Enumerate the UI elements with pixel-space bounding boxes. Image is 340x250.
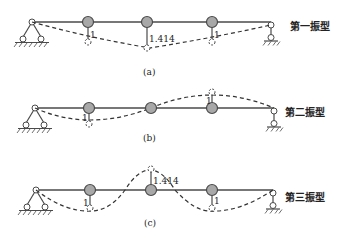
caption: (b) xyxy=(143,133,156,143)
amplitude-label: 1 xyxy=(83,198,89,208)
caption: (c) xyxy=(144,218,156,228)
mode-label: 第一振型 xyxy=(290,20,330,32)
amplitude-label: 1 xyxy=(206,96,212,106)
pin-support-icon xyxy=(18,187,53,215)
mode-label: 第三振型 xyxy=(285,191,325,203)
mode-b: 1 1 第二振型 (b) xyxy=(17,89,325,143)
mass-icon xyxy=(85,185,96,196)
roller-support-icon xyxy=(265,190,282,214)
pin-support-icon xyxy=(14,19,49,47)
mass-icon xyxy=(84,103,95,114)
amplitude-label: 1.414 xyxy=(149,34,175,44)
pin-support-icon xyxy=(17,105,52,133)
mass-icon xyxy=(83,17,94,28)
mass-icon xyxy=(207,17,218,28)
mode-c: 1 1.414 1 第三振型 (c) xyxy=(18,166,325,228)
mass-icon xyxy=(207,185,218,196)
amplitude-label: 1 xyxy=(90,30,96,40)
roller-support-icon xyxy=(266,108,283,132)
mass-icon xyxy=(142,17,153,28)
mode-label: 第二振型 xyxy=(285,106,325,118)
amplitude-label: 1 xyxy=(82,113,88,123)
amplitude-label: 1 xyxy=(214,196,220,206)
amplitude-label: 1 xyxy=(214,30,220,40)
caption: (a) xyxy=(143,67,155,77)
mass-icon xyxy=(146,103,157,114)
mode-shapes-diagram: 1 1.414 1 第一振型 (a) 1 1 第二振型 (b) xyxy=(0,0,340,250)
mode-a: 1 1.414 1 第一振型 (a) xyxy=(14,17,330,78)
roller-support-icon xyxy=(263,22,280,46)
mass-icon xyxy=(146,185,157,196)
amplitude-label: 1.414 xyxy=(153,176,179,186)
